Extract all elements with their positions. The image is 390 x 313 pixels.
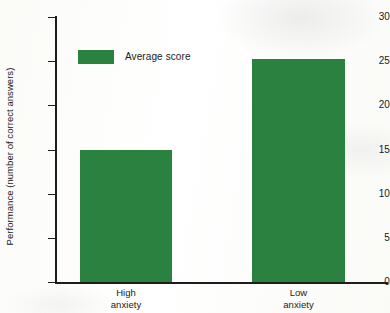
bar-low-anxiety	[252, 59, 345, 282]
x-axis-label-line: Low	[252, 287, 345, 299]
y-axis-tick-label: 0	[346, 277, 390, 287]
bar-chart-figure: Performance (number of correct answers) …	[0, 0, 390, 313]
y-axis-tick-mark	[48, 17, 56, 18]
x-axis-label-high-anxiety: High anxiety	[80, 287, 172, 311]
legend-swatch-average-score	[78, 50, 114, 64]
y-axis-tick-label: 30	[346, 12, 390, 22]
bar-high-anxiety	[80, 150, 172, 283]
y-axis-tick-mark	[48, 282, 56, 283]
y-axis-tick-mark	[48, 105, 56, 106]
x-axis-line	[55, 282, 388, 284]
y-axis-tick-mark	[48, 194, 56, 195]
x-axis-label-low-anxiety: Low anxiety	[252, 287, 345, 311]
y-axis-tick-label: 25	[346, 56, 390, 66]
x-axis-label-line: anxiety	[80, 299, 172, 311]
y-axis-tick-label: 5	[346, 233, 390, 243]
x-axis-label-line: anxiety	[252, 299, 345, 311]
y-axis-tick-label: 10	[346, 189, 390, 199]
y-axis-tick-mark	[48, 150, 56, 151]
y-axis-tick-mark	[48, 238, 56, 239]
y-axis-tick-mark	[48, 61, 56, 62]
legend-label-average-score: Average score	[125, 52, 191, 62]
y-axis-tick-label: 20	[346, 100, 390, 110]
y-axis-tick-label: 15	[346, 145, 390, 155]
x-axis-label-line: High	[80, 287, 172, 299]
chart-legend: Average score	[78, 50, 191, 64]
y-axis-title: Performance (number of correct answers)	[2, 0, 18, 313]
